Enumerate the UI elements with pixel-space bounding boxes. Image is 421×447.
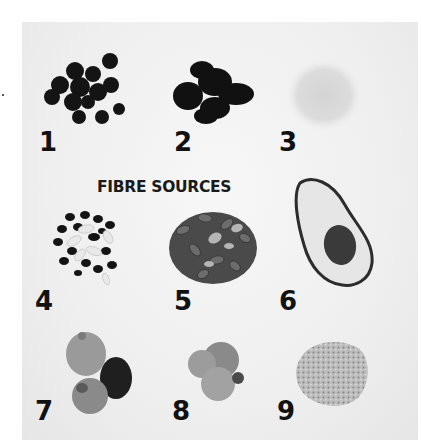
item-3-powder-image [284,55,364,135]
figure-title: FIBRE SOURCES [97,178,231,196]
item-1-blueberries-image [35,47,125,127]
item-number-6: 6 [279,288,297,314]
item-number-4: 4 [35,288,53,314]
item-2-prunes-image [170,58,260,128]
item-number-1: 1 [39,129,57,155]
item-4-beans-image [50,207,130,287]
item-number-8: 8 [172,398,190,424]
fibre-sources-photo: 1 2 3 FIBR [22,22,418,440]
item-number-9: 9 [277,398,295,424]
item-6-avocado-image [290,175,380,287]
item-7-figs-image [60,330,150,420]
item-9-grains-image [292,336,372,411]
stray-mark [2,94,4,96]
item-8-apricots-image [186,340,251,405]
item-number-2: 2 [174,129,192,155]
item-number-3: 3 [279,129,297,155]
item-number-5: 5 [174,288,192,314]
item-5-seeds-image [165,206,260,286]
item-number-7: 7 [35,398,53,424]
